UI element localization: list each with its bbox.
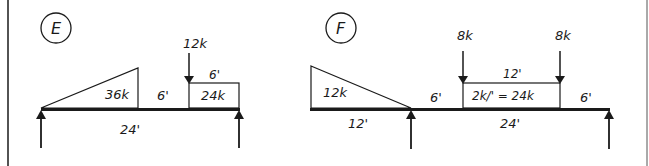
diagram-f: F 12k 12' 6' 6' 8k 8k 12' 2k/' = 24k 24' [310, 13, 614, 149]
diagram-e-point-load-label: 12k [183, 36, 208, 51]
diagram-f-left-gap-label: 6' [430, 90, 442, 105]
diagram-e-left-support-arrowhead [36, 110, 46, 119]
diagram-f-right-gap-label: 6' [580, 90, 592, 105]
diagram-f-overhang-label: 12' [348, 116, 368, 131]
beam-diagrams: E 36k 6' 12k 6' 24k 24' F 12k 12' [0, 0, 649, 166]
diagram-e-block-resultant: 24k [201, 88, 226, 103]
diagram-e-block-length: 6' [209, 68, 220, 82]
diagram-f-block-load: 2k/' = 24k [472, 89, 535, 103]
diagram-f-left-support-arrowhead [406, 110, 416, 119]
diagram-f-point-load-2-label: 8k [555, 28, 571, 43]
diagram-f-label: F [336, 19, 346, 38]
diagram-f-triangle-resultant: 12k [323, 85, 348, 100]
diagram-f-right-support-arrowhead [604, 110, 614, 119]
diagram-e-right-support-arrowhead [234, 110, 244, 119]
diagram-e: E 36k 6' 12k 6' 24k 24' [36, 13, 244, 148]
diagram-e-gap-label: 6' [157, 88, 169, 103]
diagram-e-span-label: 24' [120, 122, 140, 137]
diagram-e-triangle-resultant: 36k [105, 87, 130, 102]
diagram-e-label: E [51, 19, 62, 38]
diagram-f-point-load-1-label: 8k [457, 28, 473, 43]
diagram-f-block-length: 12' [503, 67, 522, 81]
diagram-f-span-label: 24' [500, 116, 520, 131]
